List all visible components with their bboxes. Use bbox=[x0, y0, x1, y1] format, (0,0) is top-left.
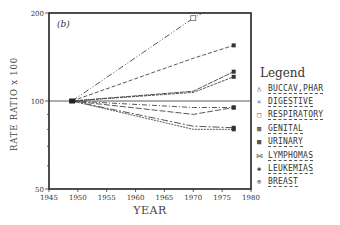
x-tick-label: 1950 bbox=[69, 194, 87, 202]
x-tick-label: 1970 bbox=[184, 194, 202, 202]
legend-marker-icon: ■ bbox=[254, 138, 264, 146]
data-marker bbox=[232, 70, 236, 74]
legend-item: ▩GENITAL bbox=[254, 122, 340, 135]
panel-label: (b) bbox=[57, 19, 70, 29]
y-tick-label: 100 bbox=[31, 98, 44, 106]
legend-marker-icon: □ bbox=[254, 111, 264, 119]
x-axis-label: YEAR bbox=[132, 204, 167, 217]
legend-label: LYMPHOMAS bbox=[268, 151, 313, 161]
legend-title: Legend bbox=[260, 66, 340, 80]
legend-marker-icon: ▩ bbox=[254, 125, 264, 133]
x-tick-label: 1975 bbox=[213, 194, 231, 202]
legend-item: ⋈LYMPHOMAS bbox=[254, 149, 340, 162]
legend-marker-icon: △ bbox=[254, 85, 264, 93]
x-tick-label: 1955 bbox=[98, 194, 116, 202]
x-tick-label: 1965 bbox=[156, 194, 174, 202]
data-marker bbox=[232, 75, 236, 79]
y-axis-label: RATE RATIO x 100 bbox=[9, 57, 19, 151]
legend-label: LEUKEMIAS bbox=[268, 164, 313, 174]
series-line bbox=[72, 77, 234, 101]
legend-item: △BUCCAV,PHAR bbox=[254, 82, 340, 95]
data-marker bbox=[232, 106, 236, 110]
legend-label: GENITAL bbox=[268, 124, 303, 134]
data-marker bbox=[191, 16, 196, 21]
legend-item: ◆LEUKEMIAS bbox=[254, 162, 340, 175]
legend-item: ■URINARY bbox=[254, 136, 340, 149]
legend-marker-icon: ◆ bbox=[254, 165, 264, 173]
legend-label: URINARY bbox=[268, 137, 303, 147]
legend: Legend △BUCCAV,PHAR×DIGESTIVE□RESPIRATOR… bbox=[254, 66, 340, 189]
legend-label: RESPIRATORY bbox=[268, 110, 323, 120]
legend-marker-icon: ⊕ bbox=[254, 178, 264, 186]
series-line bbox=[72, 45, 234, 101]
legend-marker-icon: × bbox=[254, 98, 264, 106]
y-tick-label: 50 bbox=[35, 186, 44, 194]
x-tick-label: 1980 bbox=[242, 194, 260, 202]
x-tick-label: 1960 bbox=[127, 194, 145, 202]
legend-items: △BUCCAV,PHAR×DIGESTIVE□RESPIRATORY▩GENIT… bbox=[254, 82, 340, 189]
plot-area: 1945195019551960196519701975198050100200… bbox=[31, 0, 260, 202]
y-tick-label: 200 bbox=[31, 10, 44, 18]
legend-label: DIGESTIVE bbox=[268, 97, 313, 107]
y-axis-title: RATE RATIO x 100 bbox=[9, 57, 19, 151]
legend-label: BREAST bbox=[268, 177, 298, 187]
legend-marker-icon: ⋈ bbox=[254, 152, 264, 160]
legend-item: □RESPIRATORY bbox=[254, 109, 340, 122]
data-marker bbox=[232, 43, 236, 47]
x-tick-label: 1945 bbox=[40, 194, 58, 202]
legend-item: ×DIGESTIVE bbox=[254, 95, 340, 108]
start-marker bbox=[69, 99, 75, 104]
legend-item: ⊕BREAST bbox=[254, 176, 340, 189]
data-marker bbox=[232, 126, 236, 130]
legend-label: BUCCAV,PHAR bbox=[268, 84, 323, 94]
